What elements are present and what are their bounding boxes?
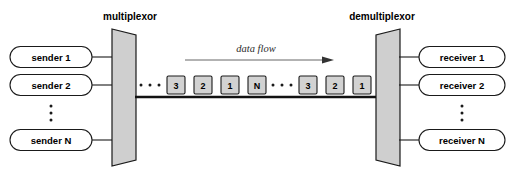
multiplexor-node[interactable]: [112, 29, 136, 166]
sender-2-label: sender 2: [31, 80, 70, 91]
packet-2-b[interactable]: 2: [326, 76, 344, 94]
node-sender-2[interactable]: sender 2: [10, 75, 92, 96]
packet-n-label: N: [254, 81, 261, 91]
demultiplexor-node[interactable]: [376, 29, 400, 166]
sender-1-label: sender 1: [31, 52, 71, 63]
packet-2-a-label: 2: [200, 81, 205, 91]
receiver-1-label: receiver 1: [440, 52, 485, 63]
multiplexor-shape: [112, 29, 136, 166]
vertical-ellipsis-left: [50, 105, 53, 122]
packet-2-b-label: 2: [332, 81, 337, 91]
vertical-ellipsis-right: [461, 105, 464, 122]
packet-1-a[interactable]: 1: [221, 76, 239, 94]
demultiplexor-shape: [376, 29, 400, 166]
demultiplexor-label: demultiplexor: [349, 11, 415, 22]
packet-3-b[interactable]: 3: [299, 76, 317, 94]
packet-1-b[interactable]: 1: [353, 76, 371, 94]
multiplexor-label: multiplexor: [103, 11, 157, 22]
receiver-n-label: receiver N: [439, 135, 485, 146]
stream-ellipsis-2: [272, 84, 293, 87]
multiplexing-diagram: sender 1 sender 2 sender N multiplexor d…: [0, 0, 512, 178]
packet-3-b-label: 3: [305, 81, 310, 91]
sender-n-label: sender N: [31, 135, 72, 146]
packet-3-a[interactable]: 3: [167, 76, 185, 94]
node-sender-1[interactable]: sender 1: [10, 47, 92, 68]
data-flow-label: data flow: [236, 43, 275, 54]
packet-1-a-label: 1: [227, 81, 232, 91]
packet-n[interactable]: N: [248, 76, 266, 94]
packet-2-a[interactable]: 2: [194, 76, 212, 94]
packet-3-a-label: 3: [173, 81, 178, 91]
data-flow-arrow: [185, 57, 334, 64]
node-receiver-n[interactable]: receiver N: [419, 130, 505, 151]
stream-ellipsis-1: [140, 84, 161, 87]
packet-1-b-label: 1: [359, 81, 364, 91]
node-receiver-1[interactable]: receiver 1: [419, 47, 505, 68]
receiver-2-label: receiver 2: [440, 80, 484, 91]
node-receiver-2[interactable]: receiver 2: [419, 75, 505, 96]
node-sender-n[interactable]: sender N: [10, 130, 92, 151]
